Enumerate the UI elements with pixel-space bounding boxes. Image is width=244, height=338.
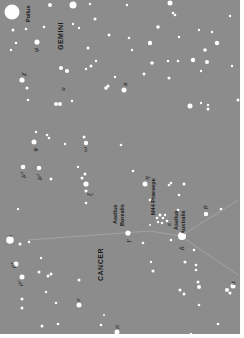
star-chi-gem <box>19 77 24 82</box>
cancer-line-iota-gamma <box>28 231 150 240</box>
label-upsilon: υ <box>60 87 66 91</box>
label-psi: ψ <box>32 147 38 152</box>
star-iota-cnc <box>6 236 14 244</box>
label-rho1: ρ¹ <box>10 262 16 268</box>
star-epsilon-area <box>204 212 208 216</box>
star-map: Pollux GEMINI CANCER Asellus Borealis As… <box>0 0 240 334</box>
label-nu: ν <box>75 298 81 302</box>
label-phi: φ <box>33 48 39 52</box>
label-rho2: ρ² <box>17 280 23 286</box>
label-pi: π <box>114 325 120 329</box>
label-mu1: μ¹ <box>20 172 26 178</box>
stars <box>5 1 240 335</box>
star-mu1-cnc <box>21 165 26 170</box>
label-kappa: κ <box>122 82 128 86</box>
cancer-line-delta-alpha <box>181 236 238 275</box>
constellation-lines <box>28 200 238 275</box>
star-omega-cnc <box>83 181 88 186</box>
label-mu2: μ² <box>36 174 42 180</box>
star-phi-gem <box>34 39 39 44</box>
label-pollux: Pollux <box>26 5 32 22</box>
label-eta: η <box>144 176 150 180</box>
label-lambda-omega: ω <box>82 147 88 152</box>
cancer-line-gamma-delta <box>150 231 181 236</box>
star-rho2-cnc <box>20 275 25 280</box>
star-kappa-gem <box>122 88 127 93</box>
label-asellus-australis-2: Australis <box>181 210 187 234</box>
star-nu-cnc <box>77 303 82 308</box>
label-asellus-borealis-1: Asellus <box>113 204 119 224</box>
label-alpha: α <box>230 281 236 285</box>
label-theta: θ <box>203 205 209 209</box>
star-psi-cnc <box>32 140 37 145</box>
star-eta-cnc <box>143 182 148 187</box>
label-asellus-borealis-2: Borealis <box>120 204 126 226</box>
cancer-line-delta-north <box>181 200 238 236</box>
label-asellus-australis-1: Asellus <box>174 210 180 230</box>
label-m44-praesepe: M44 Praesepe <box>151 178 157 215</box>
label-gemini: GEMINI <box>57 22 64 50</box>
label-omega2: ξ <box>87 193 93 196</box>
label-iota: ι <box>7 235 13 237</box>
label-delta: δ <box>179 246 185 250</box>
label-cancer: CANCER <box>97 248 104 281</box>
label-gamma: γ <box>125 239 131 243</box>
star-pollux <box>5 5 20 20</box>
label-epsilon: ε <box>166 223 172 226</box>
star-gamma-cnc <box>125 230 130 235</box>
star-mu2-cnc <box>37 166 42 171</box>
label-chi: χ <box>20 72 26 76</box>
